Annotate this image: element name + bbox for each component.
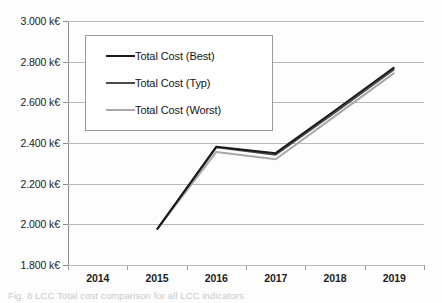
x-axis-tick <box>424 265 425 270</box>
y-axis-tick-label: 2.400 k€ <box>0 137 60 149</box>
x-axis-tick-label: 2017 <box>264 272 287 284</box>
legend-color-swatch <box>106 82 135 84</box>
y-axis-tick-label: 2.200 k€ <box>0 178 60 190</box>
legend-color-swatch <box>106 109 135 111</box>
y-axis-tick-label: 2.800 k€ <box>0 56 60 68</box>
x-axis-tick-label: 2015 <box>146 272 169 284</box>
y-axis-tick-label: 3.000 k€ <box>0 15 60 27</box>
x-axis-tick-label: 2018 <box>324 272 347 284</box>
legend-item: Total Cost (Typ) <box>86 72 272 94</box>
figure-caption: Fig. 8 LCC Total cost comparison for all… <box>8 290 244 303</box>
y-axis-tick-label: 2.000 k€ <box>0 218 60 230</box>
x-axis-tick-label: 2014 <box>86 272 109 284</box>
legend-item: Total Cost (Best) <box>86 45 272 67</box>
x-axis-tick-label: 2016 <box>205 272 228 284</box>
line-chart-figure: 3.000 k€2.800 k€2.600 k€2.400 k€2.200 k€… <box>0 0 442 288</box>
legend-label: Total Cost (Best) <box>135 50 215 62</box>
y-axis-tick-label: 1.800 k€ <box>0 259 60 271</box>
legend-color-swatch <box>106 55 135 57</box>
gridline <box>68 265 424 266</box>
legend-label: Total Cost (Typ) <box>135 77 210 89</box>
legend-label: Total Cost (Worst) <box>135 104 221 116</box>
legend-item: Total Cost (Worst) <box>86 99 272 121</box>
scanned-page-background: 3.000 k€2.800 k€2.600 k€2.400 k€2.200 k€… <box>0 0 442 303</box>
chart-legend: Total Cost (Best)Total Cost (Typ)Total C… <box>85 35 273 131</box>
y-axis-tick-label: 2.600 k€ <box>0 96 60 108</box>
x-axis-tick-label: 2019 <box>383 272 406 284</box>
